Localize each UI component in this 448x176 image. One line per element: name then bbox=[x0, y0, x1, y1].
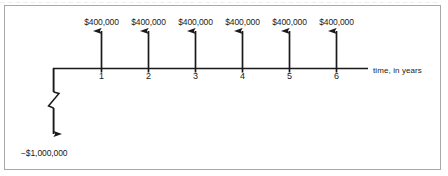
inflow-value-label-year-3: $400,000 bbox=[178, 17, 213, 27]
cash-flow-timeline-figure: — — — — — — — — — — — — — — — — — — — — … bbox=[0, 0, 448, 176]
time-axis-label: time, in years bbox=[373, 66, 422, 75]
year-tick-label-2: 2 bbox=[146, 71, 151, 81]
year-tick-label-1: 1 bbox=[99, 71, 104, 81]
outflow-arrow-year-0 bbox=[49, 68, 60, 134]
year-tick-label-3: 3 bbox=[193, 71, 198, 81]
year-tick-label-4: 4 bbox=[240, 71, 245, 81]
inflow-arrows bbox=[102, 31, 337, 73]
year-tick-label-5: 5 bbox=[287, 71, 292, 81]
outflow-value-label-year-0: −$1,000,000 bbox=[21, 148, 67, 158]
inflow-value-label-year-6: $400,000 bbox=[319, 17, 354, 27]
year-tick-label-6: 6 bbox=[334, 71, 339, 81]
axis-break-zigzag-icon bbox=[49, 92, 60, 108]
inflow-value-label-year-5: $400,000 bbox=[272, 17, 307, 27]
inflow-value-label-year-1: $400,000 bbox=[84, 17, 119, 27]
inflow-value-label-year-4: $400,000 bbox=[225, 17, 260, 27]
inflow-value-label-year-2: $400,000 bbox=[131, 17, 166, 27]
